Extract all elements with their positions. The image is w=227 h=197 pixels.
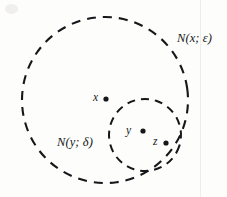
point-z-label: z (153, 136, 157, 148)
inner-neighborhood-circle (100, 90, 191, 181)
inner-neighborhood-label: N(y; δ) (57, 136, 93, 149)
point-z-dot (163, 140, 168, 145)
figure-canvas: N(x; ε) N(y; δ) x y z (0, 0, 227, 197)
neighborhood-diagram-svg (0, 0, 227, 197)
point-x-label: x (93, 92, 98, 104)
point-y-label: y (126, 125, 131, 137)
outer-neighborhood-label: N(x; ε) (177, 32, 212, 45)
point-y-dot (140, 128, 145, 133)
point-x-dot (103, 96, 108, 101)
